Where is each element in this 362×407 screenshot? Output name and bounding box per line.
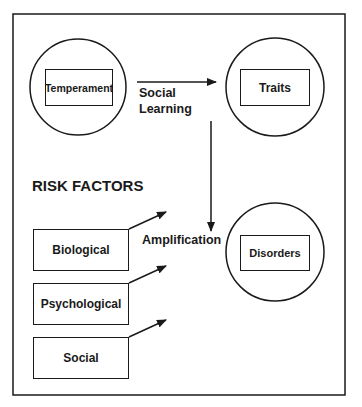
temperament-box: Temperament: [45, 69, 113, 106]
social-box: Social: [33, 337, 129, 379]
social-learning-label-1: Social: [139, 86, 176, 100]
social-arrow: [129, 320, 166, 337]
psychological-box: Psychological: [33, 283, 129, 325]
psychological-arrow: [129, 266, 166, 283]
risk-factors-heading: RISK FACTORS: [32, 177, 143, 194]
amplification-label: Amplification: [142, 233, 221, 247]
disorders-box: Disorders: [240, 235, 310, 271]
biological-box: Biological: [33, 229, 129, 271]
traits-box: Traits: [240, 69, 310, 106]
biological-arrow: [129, 212, 166, 229]
social-learning-label-2: Learning: [139, 102, 192, 116]
